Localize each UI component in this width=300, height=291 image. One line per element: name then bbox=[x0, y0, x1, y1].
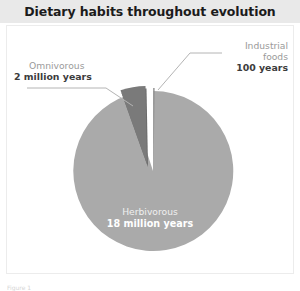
callout-omnivorous-value: 2 million years bbox=[14, 71, 92, 82]
inner-label-herbivorous-value: 18 million years bbox=[0, 218, 300, 230]
callout-industrial-value: 100 years bbox=[236, 62, 288, 73]
callout-omnivorous-name: Omnivorous bbox=[14, 60, 92, 71]
figure-caption: Figure 1 bbox=[7, 284, 31, 291]
inner-label-herbivorous: Herbivorous 18 million years bbox=[0, 206, 300, 229]
callout-industrial-name-line2: foods bbox=[236, 51, 288, 62]
callout-industrial-foods: Industrial foods 100 years bbox=[236, 40, 288, 74]
callout-omnivorous: Omnivorous 2 million years bbox=[14, 60, 92, 83]
leader-line-industrial bbox=[158, 53, 222, 90]
inner-label-herbivorous-name: Herbivorous bbox=[0, 206, 300, 218]
figure-container: Dietary habits throughout evolution Omni… bbox=[0, 0, 300, 291]
callout-industrial-name-line1: Industrial bbox=[236, 40, 288, 51]
